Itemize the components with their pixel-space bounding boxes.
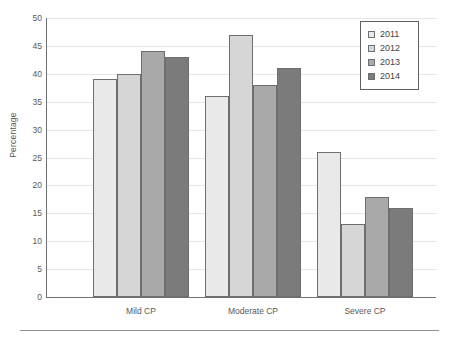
y-tick-label: 35	[33, 97, 42, 107]
y-tick-label: 50	[33, 13, 42, 23]
x-tick-label: Mild CP	[81, 306, 201, 316]
legend-swatch-icon	[368, 73, 375, 80]
bar	[165, 57, 189, 297]
legend-item: 2014	[361, 69, 418, 83]
y-tick-label: 40	[33, 69, 42, 79]
y-tick-label: 5	[37, 264, 42, 274]
legend-label: 2013	[380, 58, 400, 67]
bar	[205, 96, 229, 297]
bar	[141, 51, 165, 297]
legend-item: 2012	[361, 41, 418, 55]
bar	[341, 224, 365, 297]
legend-item: 2011	[361, 27, 418, 41]
bar	[317, 152, 341, 297]
bar-chart-figure: Percentage 05101520253035404550 Mild CPM…	[0, 0, 459, 339]
legend-swatch-icon	[368, 31, 375, 38]
legend-label: 2014	[380, 72, 400, 81]
chart-legend: 2011201220132014	[360, 21, 419, 90]
bar	[253, 85, 277, 297]
bar-group: Mild CP	[93, 18, 189, 297]
y-tick-label: 25	[33, 153, 42, 163]
bar	[277, 68, 301, 297]
x-tick-label: Moderate CP	[193, 306, 313, 316]
y-tick-label: 30	[33, 125, 42, 135]
y-tick-label: 15	[33, 208, 42, 218]
x-axis-line	[46, 297, 436, 298]
bar-group: Moderate CP	[205, 18, 301, 297]
legend-label: 2012	[380, 44, 400, 53]
x-tick-label: Severe CP	[305, 306, 425, 316]
y-tick-label: 20	[33, 180, 42, 190]
y-axis-title: Percentage	[8, 100, 18, 170]
bar	[93, 79, 117, 297]
bar	[117, 74, 141, 297]
y-tick-label: 10	[33, 236, 42, 246]
bar	[229, 35, 253, 297]
y-tick-label: 45	[33, 41, 42, 51]
footer-rule	[20, 330, 439, 331]
legend-swatch-icon	[368, 45, 375, 52]
legend-label: 2011	[380, 30, 399, 39]
y-tick-label: 0	[37, 292, 42, 302]
legend-item: 2013	[361, 55, 418, 69]
bar	[389, 208, 413, 297]
legend-swatch-icon	[368, 59, 375, 66]
bar	[365, 197, 389, 297]
